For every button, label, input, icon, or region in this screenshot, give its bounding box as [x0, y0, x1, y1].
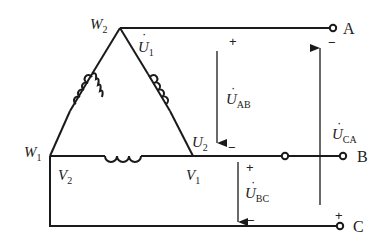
u-ca-minus: − — [328, 35, 336, 50]
label-w2: W2 — [90, 16, 108, 35]
terminal-b-icon — [340, 153, 346, 159]
delta-winding-right — [120, 28, 193, 156]
label-u-bc: UBC — [245, 185, 270, 204]
label-u2: U2 — [192, 134, 208, 153]
label-u1: U1 — [138, 39, 154, 58]
u-ab-plus: + — [229, 34, 237, 49]
terminal-a-label: A — [343, 20, 355, 37]
terminal-a-icon — [330, 25, 336, 31]
terminal-b-label: B — [357, 148, 368, 165]
terminal-c-label: C — [353, 218, 364, 235]
label-v2: V2 — [58, 167, 72, 186]
u-ca-plus: + — [335, 208, 343, 223]
label-u-ab: UAB — [226, 91, 251, 110]
u-bc-minus: − — [247, 213, 255, 228]
u-bc-plus: + — [246, 160, 254, 175]
u-ab-minus: − — [228, 140, 236, 155]
terminal-c-icon — [337, 223, 343, 229]
delta-circuit-diagram: W2 W1 V2 V1 U2 · U1 + · UAB − + · UBC − … — [0, 0, 390, 249]
label-u-ca: UCA — [332, 126, 358, 145]
node-b-icon — [282, 153, 288, 159]
label-v1: V1 — [186, 167, 200, 186]
coil-right-icon — [150, 75, 168, 104]
delta-winding-left — [50, 28, 120, 156]
label-w1: W1 — [24, 144, 42, 163]
